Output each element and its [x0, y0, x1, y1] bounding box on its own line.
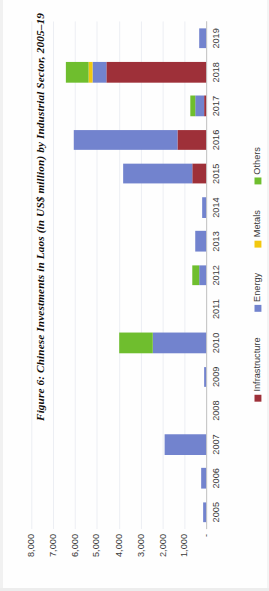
category-axis-tick-label: 2012 — [211, 265, 221, 285]
bar-column[interactable]: 2006 — [201, 468, 206, 488]
legend-swatch — [254, 177, 261, 184]
legend-label: Metals — [252, 210, 262, 237]
gridline — [140, 21, 141, 529]
legend-item[interactable]: Infrastructure — [252, 337, 262, 401]
value-axis-tick-label: 8,000 — [26, 534, 36, 557]
category-axis-tick-label: 2010 — [211, 332, 221, 352]
bar-segment-energy[interactable] — [152, 332, 205, 352]
bar-column[interactable]: 2013 — [194, 231, 205, 251]
value-axis-tick-label: 3,000 — [135, 534, 145, 557]
bar-column[interactable]: 2007 — [164, 434, 206, 454]
chart-legend: InfrastructureEnergyMetalsOthers — [248, 19, 266, 529]
bar-segment-energy[interactable] — [92, 62, 106, 82]
legend-label: Others — [252, 147, 262, 175]
legend-item[interactable]: Others — [252, 147, 262, 184]
bar-segment-others[interactable] — [192, 265, 198, 285]
bar-segment-energy[interactable] — [201, 468, 206, 488]
legend-item[interactable]: Energy — [252, 272, 262, 311]
plot-area: 8,0007,0006,0005,0004,0003,0002,0001,000… — [31, 21, 207, 529]
category-axis-tick-label: 2015 — [211, 163, 221, 183]
legend-swatch — [254, 304, 261, 311]
bar-segment-metals[interactable] — [88, 62, 92, 82]
category-axis-tick-label: 2016 — [211, 129, 221, 149]
bar-column[interactable]: 2016 — [73, 129, 205, 149]
gridline — [31, 21, 32, 529]
bar-segment-energy[interactable] — [203, 366, 205, 386]
chart-canvas: 8,0007,0006,0005,0004,0003,0002,0001,000… — [27, 19, 242, 572]
page-edge-right — [267, 0, 269, 591]
bar-segment-infrastructure[interactable] — [106, 62, 206, 82]
category-axis-tick-label: 2018 — [211, 62, 221, 82]
bar-segment-energy[interactable] — [164, 434, 206, 454]
category-axis-tick-label: 2008 — [211, 400, 221, 420]
legend-swatch — [254, 240, 261, 247]
gridline — [75, 21, 76, 529]
bar-column[interactable]: 2018 — [66, 62, 206, 82]
category-axis-tick-label: 2006 — [211, 468, 221, 488]
bar-segment-energy[interactable] — [194, 95, 203, 115]
gridline — [162, 21, 163, 529]
bar-segment-infrastructure[interactable] — [177, 129, 206, 149]
bar-segment-others[interactable] — [189, 95, 194, 115]
legend-item[interactable]: Metals — [252, 210, 262, 247]
category-axis-tick-label: 2014 — [211, 197, 221, 217]
category-axis-tick-label: 2009 — [211, 366, 221, 386]
bar-segment-infrastructure[interactable] — [192, 163, 206, 183]
category-axis-tick-label: 2007 — [211, 434, 221, 454]
bar-column[interactable]: 2009 — [203, 366, 205, 386]
bar-segment-energy[interactable] — [194, 231, 205, 251]
category-axis-tick-label: 2017 — [211, 95, 221, 115]
bar-segment-energy[interactable] — [198, 265, 205, 285]
bar-segment-others[interactable] — [119, 332, 152, 352]
value-axis-tick-label: 4,000 — [113, 534, 123, 557]
value-axis-tick-label: 6,000 — [70, 534, 80, 557]
value-axis-tick-label: 7,000 — [48, 534, 58, 557]
legend-swatch — [254, 394, 261, 401]
category-axis-tick-label: 2013 — [211, 231, 221, 251]
gridline — [118, 21, 119, 529]
value-axis-tick-label: - — [201, 534, 211, 537]
category-axis-tick-label: 2005 — [211, 501, 221, 521]
bar-segment-energy[interactable] — [203, 502, 206, 522]
gridline — [53, 21, 54, 529]
bar-column[interactable]: 2010 — [119, 332, 206, 352]
gridline — [96, 21, 97, 529]
value-axis-tick-label: 1,000 — [179, 534, 189, 557]
value-axis-tick-label: 2,000 — [157, 534, 167, 557]
category-axis-tick-label: 2011 — [211, 299, 221, 319]
bar-column[interactable]: 2015 — [122, 163, 205, 183]
legend-label: Infrastructure — [252, 337, 262, 391]
bar-segment-energy[interactable] — [202, 197, 206, 217]
bar-segment-energy[interactable] — [199, 28, 206, 48]
bar-column[interactable]: 2017 — [189, 95, 205, 115]
category-axis-tick-label: 2019 — [211, 28, 221, 48]
bar-column[interactable]: 2019 — [199, 28, 206, 48]
bar-column[interactable]: 2012 — [192, 265, 206, 285]
page-edge-left — [0, 0, 3, 591]
bar-segment-others[interactable] — [66, 62, 88, 82]
value-axis-tick-label: 5,000 — [91, 534, 101, 557]
bar-column[interactable]: 2005 — [203, 502, 206, 522]
bar-segment-energy[interactable] — [122, 163, 192, 183]
figure-page: Figure 6: Chinese Investments in Laos (i… — [0, 0, 269, 591]
bar-segment-energy[interactable] — [73, 129, 177, 149]
bar-column[interactable]: 2014 — [202, 197, 206, 217]
legend-label: Energy — [252, 272, 262, 301]
